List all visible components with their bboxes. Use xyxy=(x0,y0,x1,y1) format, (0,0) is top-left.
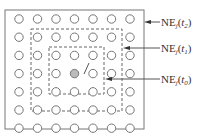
label-sub: j xyxy=(176,79,178,87)
arrowhead-t1 xyxy=(123,46,130,50)
label-ne-t1: NEj(t1) xyxy=(161,42,192,58)
neuron xyxy=(89,124,97,132)
neuron xyxy=(33,15,41,23)
neuron xyxy=(107,15,115,23)
neuron xyxy=(126,15,134,23)
neuron xyxy=(52,69,60,77)
neuron xyxy=(70,88,78,96)
label-base: NE xyxy=(161,73,176,85)
neuron xyxy=(107,124,115,132)
neuron xyxy=(33,33,41,41)
neuron xyxy=(126,69,134,77)
label-base: NE xyxy=(161,16,176,28)
neuron xyxy=(70,15,78,23)
center-pointer xyxy=(84,63,89,74)
winning-neuron xyxy=(70,69,78,77)
neuron xyxy=(107,51,115,59)
neuron xyxy=(107,69,115,77)
neuron xyxy=(107,106,115,114)
neuron xyxy=(107,33,115,41)
neuron xyxy=(33,69,41,77)
label-ne-t0: NEj(t0) xyxy=(161,73,192,89)
label-arg-sub: 1 xyxy=(184,48,188,56)
neuron xyxy=(126,106,134,114)
neuron xyxy=(126,51,134,59)
neuron xyxy=(52,124,60,132)
neuron xyxy=(89,15,97,23)
neuron xyxy=(52,88,60,96)
neuron xyxy=(70,51,78,59)
neuron xyxy=(15,106,23,114)
neuron-grid xyxy=(15,15,134,133)
label-arg-sub: 2 xyxy=(184,22,188,30)
label-arg-sub: 0 xyxy=(184,79,188,87)
neuron xyxy=(89,69,97,77)
neuron xyxy=(15,15,23,23)
neuron xyxy=(126,88,134,96)
neuron xyxy=(15,69,23,77)
neuron xyxy=(15,124,23,132)
neuron xyxy=(89,51,97,59)
label-sub: j xyxy=(176,22,178,30)
neuron xyxy=(33,51,41,59)
neuron xyxy=(33,124,41,132)
neuron xyxy=(70,33,78,41)
neuron xyxy=(107,88,115,96)
neuron xyxy=(70,106,78,114)
neuron xyxy=(52,51,60,59)
neuron xyxy=(15,88,23,96)
neuron xyxy=(70,124,78,132)
neuron xyxy=(126,33,134,41)
label-sub: j xyxy=(176,48,178,56)
neuron xyxy=(33,88,41,96)
neuron xyxy=(33,106,41,114)
arrowhead-t0 xyxy=(105,77,112,81)
neuron xyxy=(15,33,23,41)
neuron xyxy=(89,106,97,114)
neuron xyxy=(89,88,97,96)
neuron xyxy=(15,51,23,59)
label-base: NE xyxy=(161,42,176,54)
neuron xyxy=(89,33,97,41)
neuron xyxy=(52,33,60,41)
neuron xyxy=(52,15,60,23)
neuron xyxy=(52,106,60,114)
arrowhead-t2 xyxy=(144,20,151,24)
label-ne-t2: NEj(t2) xyxy=(161,16,192,32)
neuron xyxy=(126,124,134,132)
